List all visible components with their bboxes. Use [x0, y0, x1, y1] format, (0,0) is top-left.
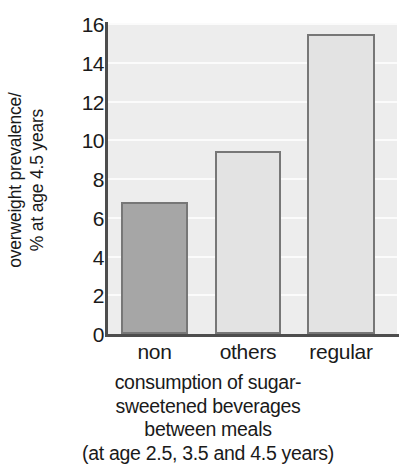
- gridline: [107, 23, 397, 25]
- x-axis-tick-label-others: others: [220, 339, 277, 365]
- y-axis-tick-label: 16: [82, 14, 104, 35]
- y-axis-tick-label: 0: [93, 324, 104, 345]
- plot-area: [107, 24, 397, 334]
- y-axis-tick-label: 14: [82, 52, 104, 73]
- y-axis-label: overweight prevalence/ % at age 4.5 year…: [0, 24, 52, 336]
- bar-regular: [307, 34, 375, 334]
- y-axis-tick-label: 8: [93, 169, 104, 190]
- y-axis-label-text: overweight prevalence/ % at age 4.5 year…: [4, 92, 48, 268]
- x-axis-title-line-2: sweetened beverages: [0, 395, 416, 419]
- x-axis-title-line-3: between meals: [0, 418, 416, 442]
- y-axis-tick-label: 2: [93, 285, 104, 306]
- y-axis-line: [105, 22, 108, 336]
- y-axis-label-line-2: % at age 4.5 years: [26, 92, 48, 268]
- y-axis-tick-label: 4: [93, 246, 104, 267]
- y-axis-tick-label: 6: [93, 207, 104, 228]
- x-axis-title-line-1: consumption of sugar-: [0, 371, 416, 395]
- y-axis-label-line-1: overweight prevalence/: [4, 92, 26, 268]
- x-axis-line: [105, 334, 399, 337]
- x-axis-title-line-4: (at age 2.5, 3.5 and 4.5 years): [0, 442, 416, 466]
- bar-non: [121, 202, 188, 334]
- y-axis-tick-label: 10: [82, 130, 104, 151]
- x-axis-title: consumption of sugar- sweetened beverage…: [0, 371, 416, 465]
- x-axis-tick-label-regular: regular: [309, 339, 372, 365]
- x-axis-tick-labels: nonothersregular: [107, 339, 397, 367]
- x-axis-tick-label-non: non: [137, 339, 171, 365]
- bar-others: [215, 151, 281, 334]
- bar-chart-figure: overweight prevalence/ % at age 4.5 year…: [0, 0, 416, 467]
- y-axis-tick-label: 12: [82, 91, 104, 112]
- y-axis-tick-labels: 0246810121416: [58, 0, 104, 360]
